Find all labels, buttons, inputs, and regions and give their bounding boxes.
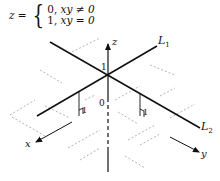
height-one-label: 1 xyxy=(101,62,107,72)
z-axis-label: z xyxy=(112,36,117,47)
x-axis-label: x xyxy=(25,138,31,149)
height-markers xyxy=(79,92,144,117)
L1-label: L1 xyxy=(158,34,170,49)
diagram-canvas: z = { 0, xy ≠ 0 1, xy = 0 z L1 L2 x y 1 … xyxy=(0,0,220,181)
piecewise-equation: z = { 0, xy ≠ 0 1, xy = 0 xyxy=(9,4,95,26)
equation-cases: 0, xy ≠ 0 1, xy = 0 xyxy=(47,4,94,26)
marker-right-label: 1 xyxy=(143,108,148,117)
y-axis xyxy=(170,137,199,152)
origin-label: 0 xyxy=(99,98,105,108)
marker-left-label: 1 xyxy=(82,106,87,115)
x-axis xyxy=(36,122,72,142)
line-L2 xyxy=(50,42,200,128)
case-2: 1, xy = 0 xyxy=(47,15,94,26)
line-L1 xyxy=(37,46,157,116)
brace-symbol: { xyxy=(32,5,44,25)
equation-lhs: z = xyxy=(9,9,27,21)
L2-label: L2 xyxy=(201,120,213,135)
y-axis-label: y xyxy=(201,148,207,159)
